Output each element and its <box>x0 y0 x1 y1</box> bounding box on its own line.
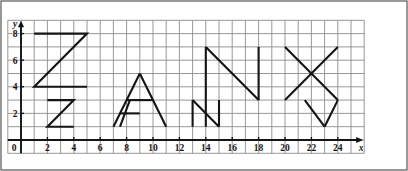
x-tick-label-8: 8 <box>124 143 129 153</box>
x-tick-label-12: 12 <box>175 143 185 153</box>
plot-canvas: 0246810121416182022242468xy <box>0 0 408 171</box>
x-tick-label-14: 14 <box>201 143 211 153</box>
y-axis-name: y <box>12 19 18 29</box>
coordinate-grid-figure: 0246810121416182022242468xy <box>0 0 408 171</box>
x-tick-label-6: 6 <box>98 143 103 153</box>
x-tick-label-2: 2 <box>45 143 50 153</box>
x-axis-name: x <box>358 143 364 153</box>
x-tick-label-22: 22 <box>307 143 317 153</box>
x-tick-label-10: 10 <box>148 143 158 153</box>
y-tick-label-2: 2 <box>13 109 18 119</box>
x-tick-label-4: 4 <box>71 143 76 153</box>
y-tick-label-4: 4 <box>13 82 18 92</box>
y-tick-label-6: 6 <box>13 56 18 66</box>
x-tick-label-16: 16 <box>227 143 237 153</box>
x-tick-label-0: 0 <box>12 143 17 153</box>
x-tick-label-18: 18 <box>254 143 264 153</box>
y-tick-label-8: 8 <box>13 29 18 39</box>
x-tick-label-20: 20 <box>280 143 290 153</box>
x-tick-label-24: 24 <box>333 143 343 153</box>
